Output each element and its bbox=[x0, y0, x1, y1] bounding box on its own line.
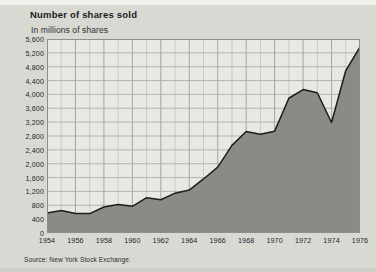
source-note: Source: New York Stock Exchange. bbox=[24, 256, 131, 263]
y-tick-label: 5,600 bbox=[0, 35, 44, 44]
x-tick-label: 1962 bbox=[153, 236, 169, 245]
scan-edge-top bbox=[0, 0, 376, 5]
y-tick-label: 4,000 bbox=[0, 90, 44, 99]
y-tick-label: 2,000 bbox=[0, 159, 44, 168]
x-tick-label: 1972 bbox=[295, 236, 311, 245]
x-tick-label: 1968 bbox=[238, 236, 254, 245]
x-tick-label: 1976 bbox=[352, 236, 368, 245]
scan-edge-bottom bbox=[0, 268, 376, 272]
y-axis-labels: 04008001,2001,6002,0002,4002,8003,2003,6… bbox=[0, 33, 44, 241]
x-tick-label: 1970 bbox=[266, 236, 282, 245]
y-tick-label: 400 bbox=[0, 215, 44, 224]
x-tick-label: 1958 bbox=[96, 236, 112, 245]
x-axis-labels: 1954195619581960196219641966196819701972… bbox=[0, 236, 376, 250]
x-tick-label: 1954 bbox=[39, 236, 55, 245]
y-tick-label: 2,400 bbox=[0, 145, 44, 154]
y-tick-label: 4,800 bbox=[0, 62, 44, 71]
area-chart-svg bbox=[47, 39, 360, 233]
x-tick-label: 1956 bbox=[67, 236, 83, 245]
y-tick-label: 800 bbox=[0, 201, 44, 210]
chart-title: Number of shares sold bbox=[30, 9, 137, 20]
y-tick-label: 5,200 bbox=[0, 48, 44, 57]
x-tick-label: 1966 bbox=[210, 236, 226, 245]
y-tick-label: 4,400 bbox=[0, 76, 44, 85]
y-tick-label: 1,600 bbox=[0, 173, 44, 182]
y-tick-label: 1,200 bbox=[0, 187, 44, 196]
x-tick-label: 1964 bbox=[181, 236, 197, 245]
y-tick-label: 3,600 bbox=[0, 104, 44, 113]
x-tick-label: 1960 bbox=[124, 236, 140, 245]
y-tick-label: 3,200 bbox=[0, 118, 44, 127]
chart-figure: Number of shares sold In millions of sha… bbox=[0, 0, 376, 272]
x-tick-label: 1974 bbox=[323, 236, 339, 245]
plot-area bbox=[47, 39, 360, 233]
y-tick-label: 2,800 bbox=[0, 132, 44, 141]
